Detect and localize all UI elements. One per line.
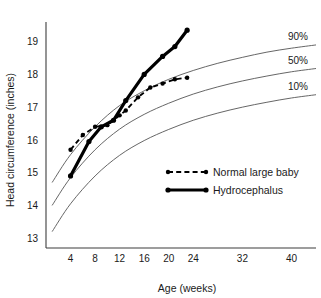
x-tick-label: 40	[286, 253, 298, 264]
x-tick-label: 24	[188, 253, 200, 264]
percentile-curve-labels: 90%50%10%	[288, 31, 308, 92]
legend-marker	[203, 187, 208, 192]
y-tick-label: 16	[27, 135, 39, 146]
data-point	[93, 125, 97, 129]
legend-marker	[165, 187, 170, 192]
series-hydrocephalus	[68, 28, 190, 179]
x-tick-label: 4	[68, 253, 74, 264]
y-tick-label: 15	[27, 167, 39, 178]
chart-legend: Normal large babyHydrocephalus	[165, 166, 299, 196]
x-tick-label: 8	[92, 253, 98, 264]
data-point	[99, 124, 104, 129]
data-point	[173, 77, 177, 81]
x-tick-label: 32	[237, 253, 249, 264]
data-point	[142, 72, 147, 77]
y-axis-tick-labels: 13141516171819	[27, 36, 39, 244]
y-tick-label: 13	[27, 233, 39, 244]
legend-label: Hydrocephalus	[213, 184, 283, 196]
data-point	[81, 133, 85, 137]
y-tick-label: 14	[27, 200, 39, 211]
y-tick-label: 18	[27, 69, 39, 80]
data-point	[68, 173, 73, 178]
axes-group	[46, 22, 316, 248]
curve-label-90pct: 90%	[288, 31, 308, 42]
data-point	[172, 44, 177, 49]
percentile-curve-10pct	[52, 95, 316, 232]
legend-label: Normal large baby	[213, 166, 300, 178]
data-point	[160, 54, 165, 59]
series-line	[71, 78, 188, 150]
x-axis-tick-labels: 48121620243240	[68, 253, 298, 264]
y-tick-label: 17	[27, 102, 39, 113]
x-tick-label: 20	[163, 253, 175, 264]
data-point	[123, 98, 128, 103]
x-axis-title: Age (weeks)	[158, 282, 216, 294]
legend-marker	[166, 170, 170, 174]
x-tick-label: 12	[114, 253, 126, 264]
chart-canvas: 48121620243240 13141516171819 90%50%10% …	[0, 0, 321, 298]
legend-marker	[204, 170, 208, 174]
legend-item-hydrocephalus: Hydrocephalus	[165, 184, 283, 196]
y-tick-label: 19	[27, 36, 39, 47]
curve-label-10pct: 10%	[288, 81, 308, 92]
patient-series-group	[68, 28, 190, 179]
legend-item-normal-large-baby: Normal large baby	[166, 166, 300, 178]
data-point	[68, 148, 72, 152]
head-circumference-growth-chart: 48121620243240 13141516171819 90%50%10% …	[0, 0, 321, 298]
data-point	[185, 75, 189, 79]
data-point	[124, 108, 128, 112]
data-point	[136, 95, 140, 99]
data-point	[148, 85, 152, 89]
data-point	[160, 81, 164, 85]
series-normal-large-baby	[68, 75, 189, 151]
x-tick-label: 16	[139, 253, 151, 264]
data-point	[111, 118, 116, 123]
percentile-curve-90pct	[52, 45, 316, 183]
data-point	[86, 139, 91, 144]
data-point	[185, 28, 190, 33]
curve-label-50pct: 50%	[288, 55, 308, 66]
y-axis-title: Head circumference (inches)	[4, 73, 16, 207]
